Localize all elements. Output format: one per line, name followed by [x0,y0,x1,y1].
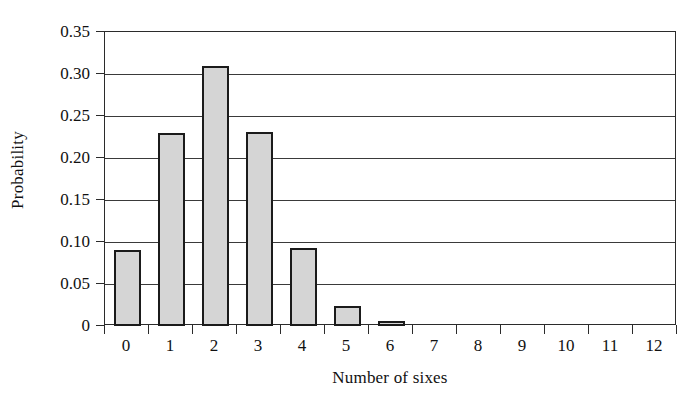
x-axis-tick-mark [456,325,457,334]
y-axis-tick-label: 0.30 [32,65,90,82]
y-axis-tick-label: 0.35 [32,23,90,40]
gridline [105,74,675,75]
x-axis-title: Number of sixes [104,368,676,388]
x-axis-tick-label: 1 [166,337,175,354]
x-axis-tick-label: 8 [474,337,483,354]
x-axis-tick-mark [632,325,633,334]
y-axis-tick-label: 0.25 [32,107,90,124]
x-axis-tick-label: 10 [558,337,575,354]
x-axis-tick-mark [412,325,413,334]
bar [334,306,361,326]
x-axis-tick-mark [324,325,325,334]
x-axis-tick-mark [676,325,677,334]
bar [158,133,185,326]
plot-area [104,31,676,325]
x-axis-tick-label: 11 [602,337,618,354]
y-axis-title: Probability [8,90,28,250]
x-axis-tick-label: 6 [386,337,395,354]
x-axis-tick-label: 4 [298,337,307,354]
bar [378,321,405,326]
x-axis-tick-label: 0 [122,337,131,354]
bar [202,66,229,326]
bar [114,250,141,326]
y-axis-tick-label: 0.20 [32,149,90,166]
x-axis-tick-label: 5 [342,337,351,354]
x-axis-tick-label: 7 [430,337,439,354]
gridline [105,200,675,201]
x-axis-tick-label: 3 [254,337,263,354]
x-axis-tick-label: 12 [646,337,663,354]
x-axis-tick-mark [104,325,105,334]
x-axis-tick-mark [148,325,149,334]
x-axis-tick-mark [500,325,501,334]
gridline [105,242,675,243]
gridline [105,158,675,159]
x-axis-tick-mark [368,325,369,334]
gridline [105,116,675,117]
x-axis-tick-mark [544,325,545,334]
y-axis-tick-labels: 00.050.100.150.200.250.300.35 [32,0,90,406]
x-axis-tick-mark [192,325,193,334]
y-axis-tick-label: 0.15 [32,191,90,208]
bar [290,248,317,326]
x-axis-tick-mark [588,325,589,334]
x-axis-tick-mark [236,325,237,334]
y-axis-tick-label: 0.10 [32,233,90,250]
x-axis-tick-label: 2 [210,337,219,354]
bar-chart: Probability 00.050.100.150.200.250.300.3… [0,0,684,406]
y-axis-tick-label: 0 [32,317,90,334]
y-axis-tick-label: 0.05 [32,275,90,292]
x-axis-tick-label: 9 [518,337,527,354]
x-axis-tick-mark [280,325,281,334]
bar [246,132,273,326]
gridline [105,284,675,285]
